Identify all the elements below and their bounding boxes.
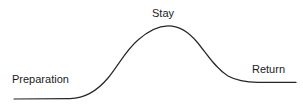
phase-label-return: Return	[252, 64, 285, 75]
curve-diagram: Preparation Stay Return	[0, 0, 303, 105]
phase-label-preparation: Preparation	[12, 74, 69, 85]
phase-label-stay: Stay	[152, 8, 174, 19]
